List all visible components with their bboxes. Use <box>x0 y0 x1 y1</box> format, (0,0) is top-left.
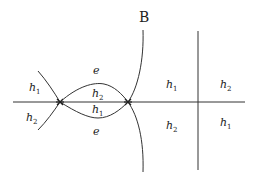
curve-b <box>128 30 143 172</box>
title-b: B <box>139 10 149 24</box>
label-mid-lower: h2 <box>166 120 178 134</box>
label-lens-lower: h1 <box>92 104 104 118</box>
left-crossing-lower <box>38 102 60 130</box>
left-star-icon <box>56 99 64 105</box>
label-left-lower: h2 <box>26 112 38 126</box>
label-top-e: e <box>93 65 100 76</box>
diagram: B h1 h2 e e h2 h1 h1 h2 h2 h1 <box>0 0 254 184</box>
label-right-lower: h1 <box>220 117 232 131</box>
label-mid-upper: h1 <box>166 79 178 93</box>
right-star-icon <box>124 99 132 105</box>
label-bottom-e: e <box>93 126 100 137</box>
left-crossing-upper <box>38 71 60 102</box>
label-left-upper: h1 <box>29 82 41 96</box>
label-right-upper: h2 <box>220 79 232 93</box>
label-lens-upper: h2 <box>92 88 104 102</box>
